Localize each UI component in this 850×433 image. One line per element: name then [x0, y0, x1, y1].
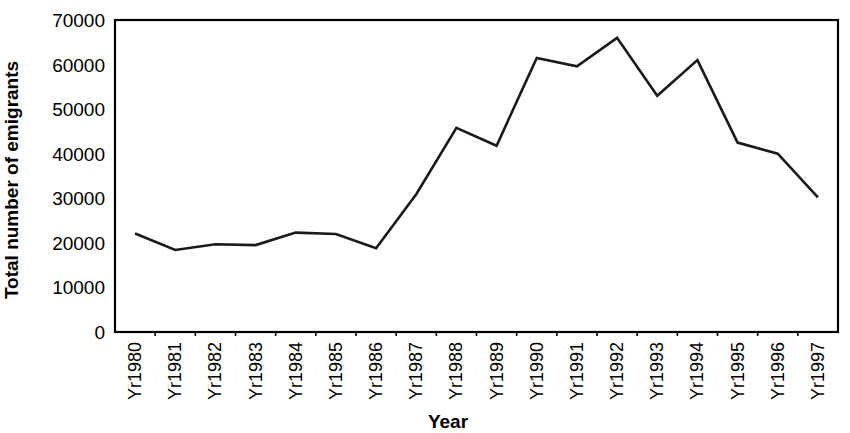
y-axis-tick-label: 0	[94, 322, 105, 343]
x-axis-tick-label: Yr1983	[246, 342, 266, 400]
x-axis-tick-label: Yr1986	[366, 342, 386, 400]
y-axis-tick-labels: 010000200003000040000500006000070000	[52, 10, 105, 343]
x-axis-tick-label: Yr1984	[286, 342, 306, 400]
x-axis-tick-label: Yr1981	[165, 342, 185, 400]
y-axis-tick-label: 20000	[52, 233, 105, 254]
x-axis-tick-label: Yr1996	[768, 342, 788, 400]
x-axis-tick-label: Yr1997	[808, 342, 828, 400]
x-axis-tick-label: Yr1982	[205, 342, 225, 400]
y-axis-tick-label: 10000	[52, 277, 105, 298]
y-axis-tick-label: 30000	[52, 188, 105, 209]
x-axis-tick-label: Yr1988	[446, 342, 466, 400]
y-axis-tick-label: 70000	[52, 10, 105, 31]
y-axis-tick-label: 50000	[52, 99, 105, 120]
x-axis-tick-label: Yr1990	[527, 342, 547, 400]
x-axis-tick-label: Yr1995	[728, 342, 748, 400]
x-axis-tick-label: Yr1991	[567, 342, 587, 400]
line-chart: Total number of emigrants Year 010000200…	[0, 0, 850, 433]
chart-container: Total number of emigrants Year 010000200…	[0, 0, 850, 433]
y-axis-title: Total number of emigrants	[1, 61, 22, 299]
plot-area-frame	[115, 20, 838, 332]
x-axis-tick-labels: Yr1980Yr1981Yr1982Yr1983Yr1984Yr1985Yr19…	[125, 342, 828, 400]
x-axis-tick-label: Yr1993	[647, 342, 667, 400]
x-axis-tick-label: Yr1980	[125, 342, 145, 400]
y-axis-tick-label: 60000	[52, 55, 105, 76]
x-axis-tick-label: Yr1987	[406, 342, 426, 400]
x-axis-tick-label: Yr1992	[607, 342, 627, 400]
data-series-line	[135, 38, 818, 250]
x-axis-tick-label: Yr1985	[326, 342, 346, 400]
y-axis-tick-label: 40000	[52, 144, 105, 165]
x-axis-title: Year	[428, 411, 469, 432]
x-axis-tick-label: Yr1989	[487, 342, 507, 400]
x-axis-tick-label: Yr1994	[687, 342, 707, 400]
